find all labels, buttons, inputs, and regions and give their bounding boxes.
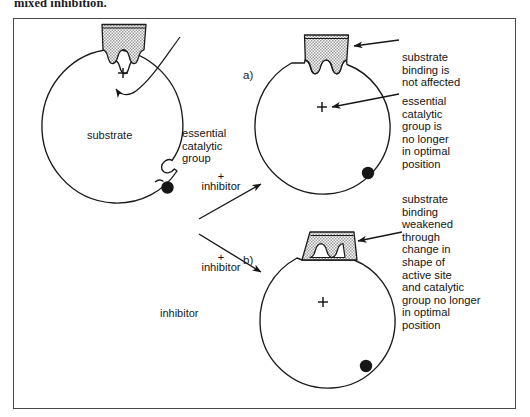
figure-caption-top: mixed inhibition. <box>14 0 107 11</box>
panel-a-substrate-binding-note: substrate binding is not affected <box>402 51 460 89</box>
panel-b-enzyme-group <box>260 232 395 388</box>
free-enzyme-inhibitor-dot <box>161 181 173 193</box>
figure-frame: substrate essential catalytic group inhi… <box>13 18 516 409</box>
transition-inhibitor-text: inhibitor <box>201 180 240 192</box>
panel-a-catalytic-group-note: essential catalytic group is no longer i… <box>402 95 450 171</box>
panel-a-substrate-arrow <box>354 40 399 46</box>
panel-b-substrate-arrow <box>358 232 402 241</box>
transition-inhibitor-text: inhibitor <box>201 261 240 273</box>
panel-a-inhibitor-dot <box>362 167 374 179</box>
panel-b-enzyme-body <box>260 258 395 388</box>
free-enzyme-group <box>42 25 183 204</box>
panel-b-substrate-binding-note: substrate binding weakened through chang… <box>402 193 480 332</box>
free-enzyme-inhibitor-label: inhibitor <box>160 307 199 319</box>
panel-b-letter: b) <box>243 254 253 266</box>
panel-b-inhibitor-dot <box>360 360 372 372</box>
transition-label-to-a: + inhibitor <box>186 171 256 192</box>
free-enzyme-substrate-label: substrate <box>87 129 132 141</box>
panel-a-letter: a) <box>243 69 253 81</box>
panel-a-enzyme-group <box>255 35 390 194</box>
free-enzyme-catalytic-group-label: essential catalytic group <box>182 127 226 165</box>
